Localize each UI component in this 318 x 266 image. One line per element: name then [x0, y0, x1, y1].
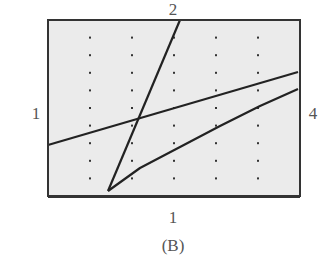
- grid-dot: [89, 160, 91, 162]
- grid-dot: [131, 107, 133, 109]
- grid-dot: [89, 142, 91, 144]
- grid-dot: [215, 177, 217, 179]
- grid-dot: [89, 89, 91, 91]
- grid-dot: [89, 54, 91, 56]
- grid-dot: [131, 177, 133, 179]
- graph-window: [0, 0, 318, 266]
- grid-dot: [215, 125, 217, 127]
- grid-dot: [173, 125, 175, 127]
- grid-dot: [173, 160, 175, 162]
- grid-dot: [173, 142, 175, 144]
- grid-dot: [257, 37, 259, 39]
- grid-dot: [131, 37, 133, 39]
- grid-dot: [89, 107, 91, 109]
- grid-dot: [89, 177, 91, 179]
- grid-dot: [131, 54, 133, 56]
- grid-dot: [215, 37, 217, 39]
- grid-dot: [215, 107, 217, 109]
- grid-dot: [215, 160, 217, 162]
- grid-dot: [173, 89, 175, 91]
- grid-dot: [215, 89, 217, 91]
- grid-dot: [215, 72, 217, 74]
- grid-dot: [131, 72, 133, 74]
- grid-dot: [173, 54, 175, 56]
- grid-dot: [131, 142, 133, 144]
- grid-dot: [89, 72, 91, 74]
- grid-dot: [257, 54, 259, 56]
- grid-dot: [131, 125, 133, 127]
- grid-dot: [173, 177, 175, 179]
- grid-dot: [131, 160, 133, 162]
- grid-dot: [89, 125, 91, 127]
- grid-dot: [257, 160, 259, 162]
- grid-dot: [257, 89, 259, 91]
- grid-dot: [215, 142, 217, 144]
- grid-dot: [173, 72, 175, 74]
- grid-dot: [131, 89, 133, 91]
- grid-dot: [257, 72, 259, 74]
- grid-dot: [215, 54, 217, 56]
- grid-dot: [257, 125, 259, 127]
- grid-dot: [257, 142, 259, 144]
- grid-dot: [89, 37, 91, 39]
- grid-dot: [257, 177, 259, 179]
